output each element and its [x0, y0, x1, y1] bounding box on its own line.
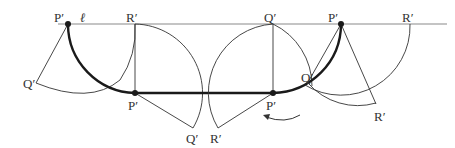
- locus-arc-1: [68, 24, 135, 93]
- arc-q-to-r-bottom: [208, 24, 273, 128]
- arrow-head-icon: [263, 114, 270, 120]
- arc-r-to-q-bottom: [135, 24, 203, 128]
- label-q_bottom: Q′: [186, 131, 198, 146]
- label-p2: P′: [328, 10, 338, 25]
- segment-p-q-bottom: [135, 93, 193, 128]
- segment-p-r-right: [341, 24, 376, 104]
- point-p-mid-left: [132, 90, 138, 96]
- label-p_mid_right: P′: [266, 98, 276, 113]
- label-line-l: ℓ: [80, 10, 86, 25]
- label-q_right: Q′: [301, 70, 313, 85]
- segment-p-r-bottom: [218, 93, 273, 128]
- double-arc-inner: [308, 83, 376, 106]
- rotation-arrow: [266, 115, 300, 120]
- point-p-top-right: [338, 21, 344, 27]
- label-r_bottom: R′: [210, 131, 222, 146]
- label-q1: Q′: [264, 10, 276, 25]
- arc-q-left-to-r: [36, 24, 135, 93]
- label-p1: P′: [54, 10, 64, 25]
- label-r1: R′: [126, 10, 138, 25]
- label-r2: R′: [402, 10, 414, 25]
- point-p-mid-right: [270, 90, 276, 96]
- point-p-top-left: [65, 21, 71, 27]
- segment-p-q-left: [36, 24, 68, 83]
- label-q_left: Q′: [23, 76, 35, 91]
- label-p_mid_left: P′: [128, 98, 138, 113]
- rolling-locus-diagram: ℓ P′R′Q′P′R′Q′P′Q′R′P′Q′R′: [0, 0, 455, 148]
- label-r_right_low: R′: [374, 109, 386, 124]
